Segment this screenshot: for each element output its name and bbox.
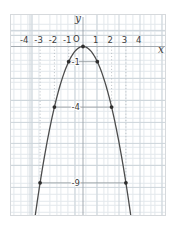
y-tick-labels: -1-4-9 bbox=[72, 57, 80, 188]
axes bbox=[11, 17, 165, 215]
data-point bbox=[110, 105, 114, 109]
data-point bbox=[95, 60, 99, 64]
x-tick-label: 4 bbox=[136, 35, 141, 45]
parabola-graph-figure: -4-3-2-11234-1-4-9 y x O bbox=[0, 0, 169, 237]
x-tick-label: 1 bbox=[93, 35, 98, 45]
x-axis-label: x bbox=[158, 44, 164, 55]
y-tick-label: -9 bbox=[72, 178, 80, 188]
y-tick-label: -1 bbox=[72, 57, 80, 67]
data-point bbox=[124, 181, 128, 185]
data-point bbox=[67, 60, 71, 64]
x-tick-label: -1 bbox=[63, 35, 71, 45]
data-point bbox=[38, 181, 42, 185]
x-tick-label: -2 bbox=[49, 35, 57, 45]
x-tick-label: -4 bbox=[20, 35, 28, 45]
x-tick-labels: -4-3-2-11234 bbox=[20, 35, 141, 45]
y-axis-label: y bbox=[75, 13, 81, 24]
x-tick-label: -3 bbox=[34, 35, 42, 45]
x-tick-label: 2 bbox=[107, 35, 112, 45]
origin-label: O bbox=[73, 35, 80, 44]
data-point bbox=[53, 105, 57, 109]
y-tick-label: -4 bbox=[72, 102, 80, 112]
plot-canvas: -4-3-2-11234-1-4-9 bbox=[0, 0, 169, 237]
x-tick-label: 3 bbox=[122, 35, 127, 45]
data-point bbox=[81, 45, 85, 49]
